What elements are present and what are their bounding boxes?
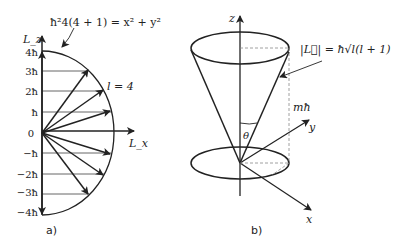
x-axis bbox=[240, 163, 311, 210]
theta-label: θ bbox=[243, 131, 249, 141]
caption-b: b) bbox=[251, 225, 262, 236]
m-level-lines bbox=[42, 71, 111, 194]
y-axis bbox=[240, 120, 309, 163]
tick-3h: 3ħ bbox=[4, 67, 38, 77]
z-axis-label: z bbox=[229, 13, 235, 24]
lx-axis-label: L_x bbox=[129, 138, 148, 149]
l-value-label: l = 4 bbox=[107, 81, 134, 92]
tick-0: 0 bbox=[0, 129, 34, 139]
equation-pointer bbox=[62, 28, 74, 47]
diagram-canvas bbox=[0, 0, 399, 249]
tick-neg3h: −3ħ bbox=[4, 188, 38, 198]
figure-a bbox=[42, 28, 134, 215]
tick-neg1h: −ħ bbox=[4, 149, 38, 159]
y-axis-label: y bbox=[309, 122, 315, 133]
magnitude-label: |L⃗| = ħ√l(l + 1) bbox=[300, 44, 390, 55]
angular-momentum-vectors bbox=[42, 52, 110, 214]
caption-a: a) bbox=[46, 225, 57, 236]
tick-4h: 4ħ bbox=[4, 48, 38, 58]
magnitude-pointer bbox=[280, 61, 322, 77]
tick-neg2h: −2ħ bbox=[4, 170, 38, 180]
lz-axis-label: L_z bbox=[23, 34, 42, 45]
theta-arc bbox=[240, 123, 257, 124]
semicircle-arc bbox=[42, 51, 114, 215]
tick-neg4h: −4ħ bbox=[4, 208, 38, 218]
tick-2h: 2ħ bbox=[4, 87, 38, 97]
projection-label: mħ bbox=[293, 102, 311, 113]
equation-label: ħ²4(4 + 1) = x² + y² bbox=[50, 17, 161, 28]
x-axis-label: x bbox=[306, 214, 312, 225]
tick-1h: ħ bbox=[4, 108, 38, 118]
